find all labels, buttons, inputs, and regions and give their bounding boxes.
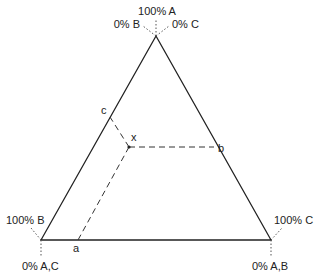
label-0-ab: 0% A,B xyxy=(252,260,288,272)
label-100-b: 100% B xyxy=(6,214,45,226)
top-vertex-ticks xyxy=(143,20,169,36)
label-100-a: 100% A xyxy=(138,5,177,17)
label-100-c: 100% C xyxy=(274,214,313,226)
label-point-b: b xyxy=(218,142,224,154)
label-point-c: c xyxy=(101,104,107,116)
label-point-x: x xyxy=(131,131,137,143)
bottom-right-vertex-ticks xyxy=(271,228,282,256)
point-x-marker xyxy=(127,145,130,148)
label-0-c: 0% C xyxy=(172,18,199,30)
line-x-to-c xyxy=(110,117,129,147)
projection-lines xyxy=(78,117,214,240)
ternary-diagram: 100% A 0% B 0% C 100% B 0% A,C 100% C 0%… xyxy=(0,0,318,280)
label-0-ac: 0% A,C xyxy=(22,260,59,272)
label-0-b: 0% B xyxy=(114,18,140,30)
bottom-left-vertex-ticks xyxy=(31,228,41,256)
triangle xyxy=(41,36,271,240)
label-point-a: a xyxy=(73,242,80,254)
